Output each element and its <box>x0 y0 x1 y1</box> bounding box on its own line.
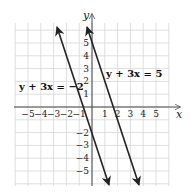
x-tick: −2 <box>60 109 73 119</box>
label-line-1: y + 3x = −2 <box>18 81 84 92</box>
y-tick: 2 <box>83 76 89 86</box>
y-tick: −5 <box>76 166 90 176</box>
x-tick: 5 <box>153 109 159 119</box>
y-tick: −2 <box>76 128 89 138</box>
coordinate-plane: x y −5−4−3−2−112345 54321−2−3−4−5 y + 3x… <box>0 0 191 196</box>
x-tick: −3 <box>47 109 61 119</box>
x-axis-label: x <box>176 108 183 121</box>
x-tick: 3 <box>128 109 134 119</box>
x-tick: −5 <box>21 109 35 119</box>
y-tick: 3 <box>83 64 89 74</box>
x-tick-labels: −5−4−3−2−112345 <box>21 109 159 119</box>
line-y-plus-3x-eq-5 <box>87 27 139 185</box>
x-tick: 1 <box>102 109 108 119</box>
label-line-2: y + 3x = 5 <box>105 68 162 79</box>
x-tick: −4 <box>34 109 48 119</box>
y-tick: −4 <box>76 153 90 163</box>
y-axis-label: y <box>82 9 90 22</box>
x-tick: 4 <box>140 109 146 119</box>
y-tick: −3 <box>76 140 90 150</box>
y-tick: 1 <box>83 89 89 99</box>
y-tick: 4 <box>83 51 89 61</box>
y-tick: 5 <box>83 38 89 48</box>
